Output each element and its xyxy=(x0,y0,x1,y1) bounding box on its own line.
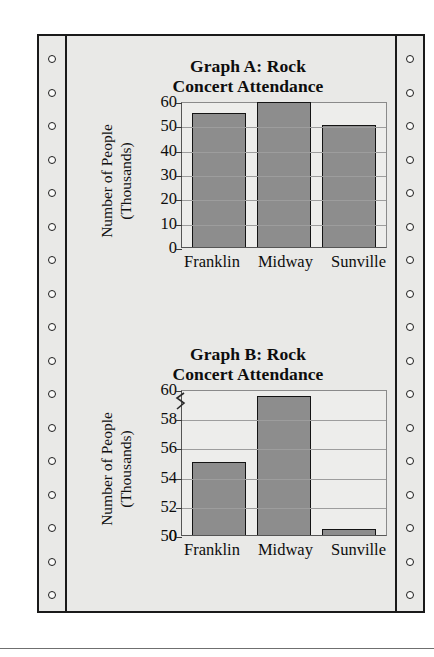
y-tick-label: 40 xyxy=(161,143,178,159)
gridline xyxy=(182,176,386,177)
chart-b-y-tick-labels: 6058565452500 xyxy=(137,390,177,548)
sprocket-hole xyxy=(48,524,56,532)
chart-a-y-axis-label: Number of People (Thousands) xyxy=(93,102,139,260)
x-tick-label: Sunville xyxy=(331,540,386,560)
axis-break-icon xyxy=(173,391,187,411)
axis-tick-mark xyxy=(176,449,182,450)
chart-a-y-axis-label-line-1: Number of People xyxy=(97,124,116,238)
bar-midway xyxy=(257,396,311,535)
chart-graph-b: Graph B: Rock Concert Attendance Number … xyxy=(67,332,395,607)
sprocket-hole xyxy=(406,323,414,331)
y-tick-label: 56 xyxy=(161,440,178,456)
sprocket-hole xyxy=(48,256,56,264)
sprocket-hole xyxy=(48,122,56,130)
bar-franklin xyxy=(192,462,246,535)
y-tick-label: 50 xyxy=(161,118,178,134)
sprocket-strip-left xyxy=(39,36,67,611)
chart-b-plot-area: Number of People (Thousands) 60585654525… xyxy=(67,390,395,576)
sprocket-hole xyxy=(406,55,414,63)
chart-a-title-line-1: Graph A: Rock xyxy=(113,56,383,76)
sprocket-hole xyxy=(406,424,414,432)
chart-b-title-line-2: Concert Attendance xyxy=(113,364,383,384)
sprocket-hole xyxy=(48,223,56,231)
gridline xyxy=(182,420,386,421)
sprocket-hole xyxy=(48,424,56,432)
axis-tick-mark xyxy=(176,225,182,226)
axis-tick-mark xyxy=(176,537,182,538)
sprocket-hole xyxy=(48,290,56,298)
gridline xyxy=(182,449,386,450)
axis-tick-mark xyxy=(176,152,182,153)
x-tick-label: Midway xyxy=(258,540,313,560)
y-tick-label: 54 xyxy=(161,470,178,486)
chart-b-y-axis-label-line-2: (Thousands) xyxy=(116,412,135,526)
sprocket-hole xyxy=(48,323,56,331)
y-tick-label: 30 xyxy=(161,167,178,183)
axis-tick-mark xyxy=(176,176,182,177)
page-body: Graph A: Rock Concert Attendance Number … xyxy=(67,36,395,611)
sprocket-hole xyxy=(406,189,414,197)
gridline xyxy=(182,152,386,153)
sprocket-hole xyxy=(406,558,414,566)
sprocket-hole xyxy=(406,290,414,298)
sprocket-hole xyxy=(48,156,56,164)
sprocket-hole xyxy=(406,591,414,599)
x-tick-label: Franklin xyxy=(184,252,240,272)
sprocket-hole xyxy=(48,491,56,499)
sprocket-hole xyxy=(406,357,414,365)
sprocket-hole xyxy=(406,156,414,164)
gridline xyxy=(182,479,386,480)
axis-tick-mark xyxy=(176,420,182,421)
axis-tick-mark xyxy=(176,479,182,480)
sprocket-hole xyxy=(48,357,56,365)
y-tick-label: 20 xyxy=(161,191,178,207)
sprocket-hole xyxy=(406,223,414,231)
chart-a-title: Graph A: Rock Concert Attendance xyxy=(67,56,395,96)
sprocket-hole xyxy=(48,457,56,465)
y-tick-label: 52 xyxy=(161,499,178,515)
sprocket-hole xyxy=(406,89,414,97)
sprocket-hole xyxy=(48,189,56,197)
chart-a-y-axis-label-line-2: (Thousands) xyxy=(116,124,135,238)
sprocket-hole xyxy=(406,491,414,499)
chart-a-plot xyxy=(181,102,387,248)
axis-tick-mark xyxy=(176,127,182,128)
chart-b-plot xyxy=(181,390,387,536)
sprocket-strip-right xyxy=(395,36,423,611)
sprocket-hole xyxy=(48,591,56,599)
sprocket-hole xyxy=(406,524,414,532)
continuous-feed-paper-sheet: Graph A: Rock Concert Attendance Number … xyxy=(37,34,425,613)
axis-tick-mark xyxy=(176,249,182,250)
chart-a-plot-area: Number of People (Thousands) 60504030201… xyxy=(67,102,395,288)
chart-b-bars xyxy=(182,391,386,535)
chart-b-y-axis-label-line-1: Number of People xyxy=(97,412,116,526)
page-bottom-rule xyxy=(0,648,434,649)
sprocket-hole xyxy=(48,390,56,398)
sprocket-hole xyxy=(406,256,414,264)
chart-graph-a: Graph A: Rock Concert Attendance Number … xyxy=(67,44,395,330)
sprocket-hole xyxy=(48,55,56,63)
bar-franklin xyxy=(192,113,246,247)
chart-b-x-tick-labels: FranklinMidwaySunville xyxy=(175,540,395,560)
chart-a-title-line-2: Concert Attendance xyxy=(113,76,383,96)
axis-tick-mark xyxy=(176,103,182,104)
gridline xyxy=(182,508,386,509)
chart-b-title: Graph B: Rock Concert Attendance xyxy=(67,344,395,384)
chart-b-title-line-1: Graph B: Rock xyxy=(113,344,383,364)
chart-a-y-tick-labels: 6050403020100 xyxy=(137,102,177,260)
gridline xyxy=(182,127,386,128)
x-tick-label: Midway xyxy=(258,252,313,272)
axis-tick-mark xyxy=(176,200,182,201)
bar-sunville xyxy=(322,529,376,535)
chart-a-x-tick-labels: FranklinMidwaySunville xyxy=(175,252,395,272)
y-tick-label: 58 xyxy=(161,411,178,427)
sprocket-hole xyxy=(48,89,56,97)
x-tick-label: Sunville xyxy=(331,252,386,272)
gridline xyxy=(182,225,386,226)
gridline xyxy=(182,200,386,201)
bar-sunville xyxy=(322,125,376,247)
sprocket-hole xyxy=(48,558,56,566)
x-tick-label: Franklin xyxy=(184,540,240,560)
y-tick-label: 10 xyxy=(161,216,178,232)
axis-tick-mark xyxy=(176,508,182,509)
